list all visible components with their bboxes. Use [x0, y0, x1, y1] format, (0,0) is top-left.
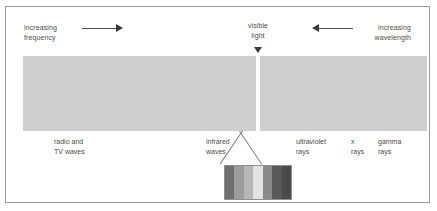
figure-border: increasing frequency increasing waveleng…: [5, 6, 430, 203]
visible-band-indigo: [272, 166, 281, 199]
spectrum-segment-high-frequency: [260, 56, 427, 131]
arrow-left-icon: [312, 24, 319, 32]
wavelength-arrow-line: [317, 28, 353, 29]
spectrum-bar: [23, 56, 427, 131]
visible-band-red: [225, 166, 234, 199]
band-label-x-rays-line1: x: [351, 137, 364, 147]
band-label-infrared-line1: infrared: [206, 137, 230, 147]
visible-band-yellow: [244, 166, 253, 199]
band-label-x-rays-line2: rays: [351, 147, 364, 157]
band-label-gamma-rays-line1: gamma: [378, 137, 401, 147]
visible-band-blue: [263, 166, 272, 199]
callout-leader-line-left: [239, 131, 262, 165]
band-label-radio-tv: radio and TV waves: [54, 137, 85, 156]
increasing-wavelength-line2: wavelength: [375, 33, 411, 43]
visible-light-line2: light: [238, 31, 278, 41]
spectrum-figure: increasing frequency increasing waveleng…: [0, 0, 437, 211]
visible-light-label: visible light: [238, 21, 278, 40]
band-label-radio-tv-line1: radio and: [54, 137, 85, 147]
visible-band-orange: [234, 166, 243, 199]
band-label-ultraviolet: ultraviolet rays: [296, 137, 326, 156]
band-label-ultraviolet-line2: rays: [296, 147, 326, 157]
band-label-gamma-rays-line2: rays: [378, 147, 401, 157]
increasing-wavelength-label: increasing wavelength: [375, 23, 411, 42]
visible-light-line1: visible: [238, 21, 278, 31]
arrow-right-icon: [116, 24, 123, 32]
band-label-ultraviolet-line1: ultraviolet: [296, 137, 326, 147]
arrow-down-icon: [254, 47, 262, 53]
visible-band-green: [253, 166, 262, 199]
increasing-frequency-line1: increasing: [24, 23, 57, 33]
increasing-frequency-line2: frequency: [24, 33, 57, 43]
band-label-gamma-rays: gamma rays: [378, 137, 401, 156]
band-label-x-rays: x rays: [351, 137, 364, 156]
frequency-arrow-line: [82, 28, 118, 29]
visible-light-detail-strip: [224, 165, 292, 200]
visible-band-violet: [282, 166, 291, 199]
increasing-frequency-label: increasing frequency: [24, 23, 57, 42]
band-label-radio-tv-line2: TV waves: [54, 147, 85, 157]
increasing-wavelength-line1: increasing: [375, 23, 411, 33]
spectrum-segment-low-frequency: [23, 56, 256, 131]
